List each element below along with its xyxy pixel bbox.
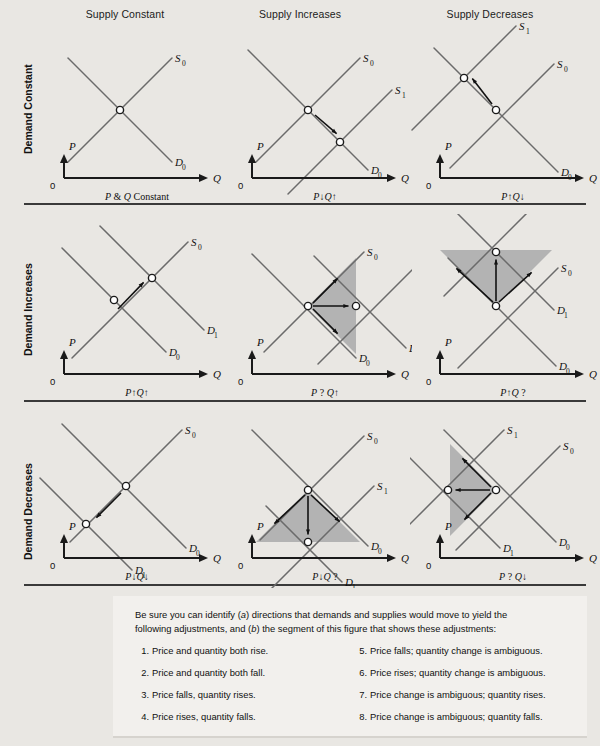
panel-1-3: S1S0D0PQ0P↑Q↓ — [410, 18, 600, 208]
caption-list-item: 3Price falls, quantity rises. — [135, 688, 350, 710]
label-s0: S0 — [191, 236, 202, 252]
adjustment-arrow — [96, 493, 121, 518]
caption-intro: Be sure you can identify (a) directions … — [135, 608, 565, 636]
caption-list-item: 1Price and quantity both rise. — [135, 644, 350, 666]
svg-text:0: 0 — [568, 269, 572, 278]
label-d0: D0 — [168, 346, 180, 362]
origin-label: 0 — [50, 560, 55, 571]
svg-text:0: 0 — [378, 547, 382, 556]
panel-footer-label: P & Q Constant — [104, 191, 169, 202]
x-axis-label: Q — [589, 368, 597, 380]
svg-text:1: 1 — [402, 91, 406, 100]
label-s1: S1 — [395, 84, 406, 100]
svg-text:S: S — [561, 262, 567, 274]
row-label-demand-constant: Demand Constant — [22, 44, 34, 174]
axes — [248, 350, 396, 378]
y-axis-label: P — [256, 140, 264, 152]
equilibrium-point-0 — [492, 302, 499, 309]
svg-text:1: 1 — [352, 583, 356, 589]
svg-text:1: 1 — [510, 549, 514, 558]
origin-label: 0 — [426, 376, 431, 387]
label-d1: D1 — [502, 542, 514, 558]
equilibrium-point-1 — [82, 520, 89, 527]
caption-list-right-column: 5Price falls; quantity change is ambiguo… — [353, 644, 568, 732]
caption-list-item: 8Price change is ambiguous; quantity fal… — [353, 710, 568, 732]
equilibrium-point-1 — [336, 138, 343, 145]
caption-item-text: Price rises; quantity change is ambiguou… — [370, 667, 546, 678]
x-axis-label: Q — [589, 552, 597, 564]
adjustment-arrow — [472, 78, 492, 104]
svg-text:0: 0 — [564, 65, 568, 74]
caption-item-number: 2 — [135, 666, 149, 679]
caption-bottom-rule — [113, 736, 587, 738]
caption-item-text: Price change is ambiguous; quantity fall… — [370, 711, 543, 722]
panel-3-3: S1S0D0D1PQ0P ? Q↓ — [410, 398, 600, 588]
panel-footer-label: P↑Q↓ — [500, 191, 524, 202]
svg-text:S: S — [175, 52, 181, 64]
row-label-demand-increases: Demand Increases — [22, 245, 34, 375]
origin-label: 0 — [238, 180, 243, 191]
panel-3-2: S0S1D0D1PQ0P↓Q ? — [222, 398, 412, 588]
x-axis-label: Q — [401, 172, 409, 184]
panel-3-3-chart: S1S0D0D1PQ0P ? Q↓ — [410, 398, 600, 588]
equilibrium-point-0 — [304, 106, 311, 113]
y-axis-label: P — [68, 520, 76, 532]
y-axis-label: P — [256, 336, 264, 348]
y-axis-label: P — [444, 140, 452, 152]
label-d0: D0 — [558, 536, 570, 552]
supply-curve-s0 — [72, 242, 188, 358]
label-s1: S1 — [519, 20, 530, 36]
svg-text:0: 0 — [374, 253, 378, 262]
panel-footer-label: P↑Q↑ — [124, 387, 148, 398]
origin-label: 0 — [426, 560, 431, 571]
label-s0: S0 — [185, 424, 196, 440]
svg-text:S: S — [519, 20, 525, 32]
row-label-demand-decreases: Demand Decreases — [22, 442, 34, 582]
svg-text:0: 0 — [370, 59, 374, 68]
svg-text:S: S — [395, 84, 401, 96]
figure-root: Supply Constant Supply Increases Supply … — [0, 0, 600, 746]
panel-footer-label: P↓Q↑ — [312, 191, 336, 202]
panel-2-3-chart: S1S0D0D1PQ0P↑Q ? — [410, 214, 600, 404]
panel-footer-label: P ? Q↑ — [310, 387, 339, 398]
equilibrium-point-0 — [304, 486, 311, 493]
label-s0: S0 — [557, 58, 568, 74]
panel-footer-label: P↑Q ? — [499, 387, 526, 398]
adjustment-arrow — [118, 282, 144, 309]
svg-text:1: 1 — [564, 311, 568, 320]
label-s0: S0 — [561, 262, 572, 278]
svg-text:S: S — [507, 424, 513, 436]
caption-item-text: Price and quantity both rise. — [152, 645, 268, 656]
caption-item-number: 8 — [353, 710, 367, 723]
caption-list-item: 5Price falls; quantity change is ambiguo… — [353, 644, 568, 666]
caption-item-text: Price falls; quantity change is ambiguou… — [370, 645, 543, 656]
origin-label: 0 — [238, 560, 243, 571]
caption-item-text: Price falls, quantity rises. — [152, 689, 256, 700]
equilibrium-point-0 — [492, 486, 499, 493]
svg-text:1: 1 — [214, 331, 218, 340]
panel-1-1-chart: S0D0PQ0P & Q Constant — [34, 18, 224, 208]
caption-intro-line2: following adjustments, and (b) the segme… — [135, 623, 496, 634]
caption-item-text: Price change is ambiguous; quantity rise… — [370, 689, 546, 700]
caption-item-number: 3 — [135, 688, 149, 701]
origin-label: 0 — [238, 376, 243, 387]
caption-item-number: 1 — [135, 644, 149, 657]
svg-text:0: 0 — [374, 437, 378, 446]
label-d0: D0 — [358, 352, 370, 368]
caption-list-item: 7Price change is ambiguous; quantity ris… — [353, 688, 568, 710]
label-s0: S0 — [363, 52, 374, 68]
caption-item-number: 7 — [353, 688, 367, 701]
equilibrium-point-0 — [304, 302, 311, 309]
caption-item-number: 5 — [353, 644, 367, 657]
label-s0: S0 — [367, 430, 378, 446]
panel-2-1-chart: S0D0D1PQ0P↑Q↑ — [34, 214, 224, 404]
y-axis-label: P — [68, 336, 76, 348]
svg-text:S: S — [557, 58, 563, 70]
caption-item-number: 6 — [353, 666, 367, 679]
label-d0: D0 — [174, 156, 186, 172]
x-axis-label: Q — [401, 368, 409, 380]
x-axis-label: Q — [589, 172, 597, 184]
y-axis-label: P — [444, 336, 452, 348]
caption-item-number: 4 — [135, 710, 149, 723]
panel-2-2-chart: S0S1D0D1PQ0P ? Q↑ — [222, 214, 412, 404]
